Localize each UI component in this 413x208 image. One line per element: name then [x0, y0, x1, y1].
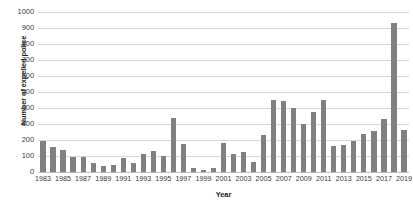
- bar-2019: [401, 130, 406, 172]
- x-axis-title: Year: [38, 190, 409, 199]
- bar-2012: [331, 146, 336, 172]
- y-tick-label-300: 300: [2, 120, 34, 127]
- bar-2011: [321, 100, 326, 172]
- bar-1995: [161, 156, 166, 172]
- bar-2008: [291, 108, 296, 172]
- bar-1991: [121, 158, 126, 172]
- x-axis-tick-labels: 1983198519871989199119931995199719992001…: [38, 175, 409, 187]
- bar-2005: [261, 135, 266, 172]
- bar-1997: [181, 144, 186, 172]
- y-tick-label-400: 400: [2, 104, 34, 111]
- y-tick-label-200: 200: [2, 136, 34, 143]
- bar-2014: [351, 141, 356, 172]
- bar-1992: [131, 163, 136, 172]
- y-tick-label-500: 500: [2, 88, 34, 95]
- bar-2001: [221, 143, 226, 172]
- y-tick-label-100: 100: [2, 152, 34, 159]
- bar-2010: [311, 112, 316, 172]
- y-tick-label-600: 600: [2, 72, 34, 79]
- bar-2013: [341, 145, 346, 172]
- bar-1996: [171, 118, 176, 172]
- bar-2016: [371, 131, 376, 172]
- bar-1990: [111, 165, 116, 172]
- x-tick-label-2019: 2019: [391, 175, 413, 182]
- bar-1987: [81, 157, 86, 172]
- bar-2018: [391, 23, 396, 172]
- bar-1994: [151, 151, 156, 172]
- bar-2003: [241, 152, 246, 172]
- bar-1993: [141, 154, 146, 172]
- bar-2002: [231, 154, 236, 172]
- y-tick-label-1000: 1000: [2, 8, 34, 15]
- bar-1985: [60, 150, 65, 172]
- bar-1984: [50, 147, 55, 172]
- bar-2007: [281, 101, 286, 172]
- y-tick-label-700: 700: [2, 56, 34, 63]
- y-tick-label-800: 800: [2, 40, 34, 47]
- bar-2004: [251, 162, 256, 172]
- bar-1986: [70, 157, 75, 172]
- bar-2009: [301, 124, 306, 172]
- bar-2015: [361, 134, 366, 172]
- y-tick-label-900: 900: [2, 24, 34, 31]
- bar-2017: [381, 119, 386, 172]
- bar-2006: [271, 100, 276, 172]
- bar-1988: [91, 163, 96, 172]
- x-axis-line: [38, 172, 409, 173]
- bar-chart: Number of expelled police 01002003004005…: [0, 0, 413, 208]
- bar-1983: [40, 141, 45, 172]
- bars-layer: [38, 12, 409, 172]
